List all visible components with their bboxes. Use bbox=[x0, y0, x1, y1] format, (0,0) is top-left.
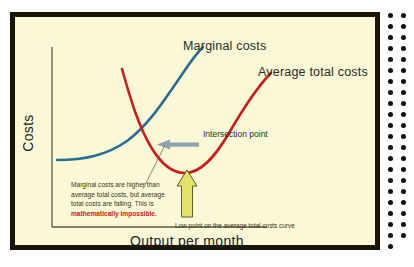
decorative-dot bbox=[401, 13, 406, 18]
decorative-dot bbox=[401, 112, 406, 117]
decorative-dot bbox=[401, 156, 406, 161]
decorative-dot bbox=[388, 211, 393, 216]
impossibility-note: Marginal costs are higher than average t… bbox=[71, 180, 179, 218]
decorative-dot-grid bbox=[386, 0, 414, 267]
decorative-dot bbox=[388, 123, 393, 128]
decorative-dot bbox=[401, 79, 406, 84]
decorative-dot bbox=[388, 200, 393, 205]
decorative-dot bbox=[388, 46, 393, 51]
decorative-dot bbox=[388, 233, 393, 238]
decorative-dot bbox=[401, 101, 406, 106]
intersection-point-label: Intersection point bbox=[203, 129, 273, 140]
decorative-dot bbox=[401, 189, 406, 194]
decorative-dot bbox=[388, 68, 393, 73]
decorative-dot bbox=[401, 24, 406, 29]
decorative-dot bbox=[401, 68, 406, 73]
decorative-dot bbox=[388, 189, 393, 194]
decorative-dot bbox=[388, 145, 393, 150]
x-axis-title: Output per month bbox=[130, 233, 244, 245]
decorative-dot bbox=[401, 46, 406, 51]
y-axis-title: Costs bbox=[20, 114, 36, 151]
decorative-dot bbox=[401, 123, 406, 128]
decorative-dot bbox=[388, 112, 393, 117]
decorative-dot bbox=[388, 90, 393, 95]
decorative-dot bbox=[388, 134, 393, 139]
low-point-arrow bbox=[177, 170, 197, 217]
decorative-dot bbox=[401, 57, 406, 62]
low-point-caption: Low point on the average total costs cur… bbox=[175, 222, 295, 229]
diagram-frame: Marginal costs Average total costs Inter… bbox=[10, 12, 380, 250]
decorative-dot bbox=[401, 145, 406, 150]
decorative-dot bbox=[388, 24, 393, 29]
impossibility-note-text: Marginal costs are higher than average t… bbox=[71, 181, 165, 207]
decorative-dot bbox=[401, 211, 406, 216]
decorative-dot bbox=[388, 222, 393, 227]
figure-page: Marginal costs Average total costs Inter… bbox=[0, 0, 414, 267]
decorative-dot bbox=[401, 233, 406, 238]
decorative-dot bbox=[401, 178, 406, 183]
decorative-dot bbox=[401, 134, 406, 139]
decorative-dot bbox=[388, 13, 393, 18]
diagram-canvas: Marginal costs Average total costs Inter… bbox=[15, 17, 375, 245]
decorative-dot bbox=[388, 79, 393, 84]
decorative-dot bbox=[388, 57, 393, 62]
decorative-dot bbox=[388, 244, 393, 249]
marginal-costs-label: Marginal costs bbox=[183, 39, 266, 53]
decorative-dot bbox=[401, 222, 406, 227]
decorative-dot bbox=[388, 156, 393, 161]
decorative-dot bbox=[388, 35, 393, 40]
average-total-cost-curve bbox=[122, 69, 271, 173]
decorative-dot bbox=[388, 178, 393, 183]
average-total-costs-label: Average total costs bbox=[258, 65, 368, 79]
decorative-dot bbox=[388, 101, 393, 106]
decorative-dot bbox=[401, 35, 406, 40]
decorative-dot bbox=[401, 200, 406, 205]
decorative-dot bbox=[401, 90, 406, 95]
decorative-dot bbox=[401, 167, 406, 172]
impossibility-note-emphasis: mathematically impossible. bbox=[71, 210, 157, 217]
decorative-dot bbox=[388, 167, 393, 172]
